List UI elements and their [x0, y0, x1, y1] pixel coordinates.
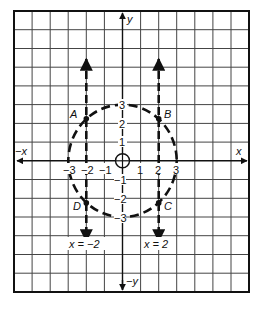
y-tick: −3: [114, 212, 127, 224]
x-tick: −1: [99, 164, 112, 176]
equation-x-neg2: x = −2: [68, 238, 100, 250]
point-d-label: D: [73, 200, 81, 212]
point-d: [84, 200, 90, 206]
grid-border: [14, 11, 249, 292]
x-axis-label: x: [235, 145, 242, 157]
y-axis-label: y: [126, 13, 134, 25]
x-neg-axis-label: −x: [15, 145, 27, 157]
point-b: [156, 116, 162, 122]
y-tick: −1: [114, 174, 127, 186]
point-b-label: B: [164, 108, 171, 120]
x-tick: 2: [155, 164, 161, 176]
x-tick: −3: [63, 164, 76, 176]
y-tick: −2: [114, 193, 127, 205]
origin-marker-icon: [116, 154, 130, 168]
point-a: [84, 116, 90, 122]
point-c: [156, 200, 162, 206]
y-neg-axis-label: −y: [126, 275, 139, 287]
x-tick: −2: [81, 164, 94, 176]
y-tick: 3: [119, 99, 125, 111]
y-tick: 2: [119, 118, 125, 130]
x-tick: 3: [173, 164, 179, 176]
grid: [14, 11, 249, 292]
y-tick: 1: [119, 136, 125, 148]
point-c-label: C: [164, 200, 172, 212]
x-tick: 1: [137, 164, 143, 176]
coordinate-diagram: y −y x −x −3 −2 −1 1 2 3 3 2 1 −1 −2 −3 …: [0, 0, 263, 309]
point-a-label: A: [69, 108, 77, 120]
equation-x-2: x = 2: [143, 238, 168, 250]
graph-canvas: y −y x −x −3 −2 −1 1 2 3 3 2 1 −1 −2 −3 …: [0, 0, 263, 309]
